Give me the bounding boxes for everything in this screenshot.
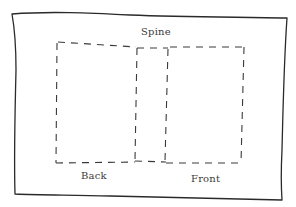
back-panel-outline	[56, 42, 136, 163]
back-label: Back	[81, 170, 107, 181]
front-panel-outline	[166, 47, 244, 163]
paper-sheet-outline	[12, 12, 287, 200]
spine-panel-outline	[135, 48, 168, 162]
front-label: Front	[191, 173, 220, 184]
spine-label: Spine	[141, 26, 171, 37]
